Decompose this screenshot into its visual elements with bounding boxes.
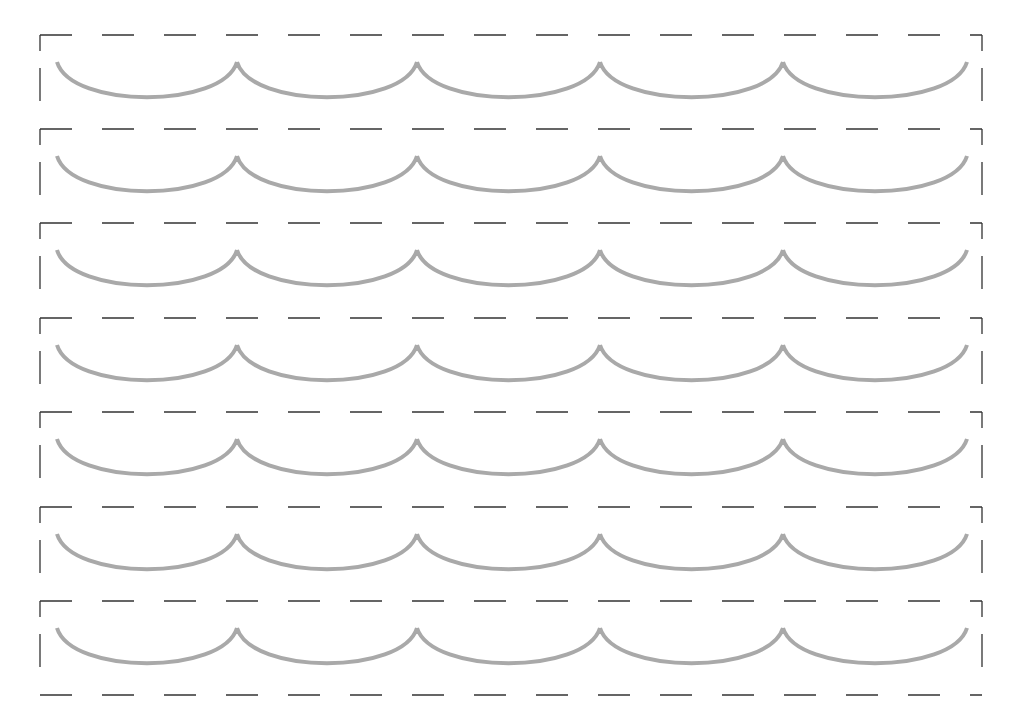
scallop-row	[57, 250, 967, 285]
scallop-row	[57, 156, 967, 191]
tracing-worksheet	[0, 0, 1011, 727]
dashed-guide-lines	[40, 35, 982, 695]
scallop-row	[57, 534, 967, 569]
scallop-row	[57, 62, 967, 97]
scallop-row	[57, 628, 967, 663]
scallop-row	[57, 439, 967, 474]
scallop-row	[57, 345, 967, 380]
scallop-trace-strokes	[57, 62, 967, 663]
